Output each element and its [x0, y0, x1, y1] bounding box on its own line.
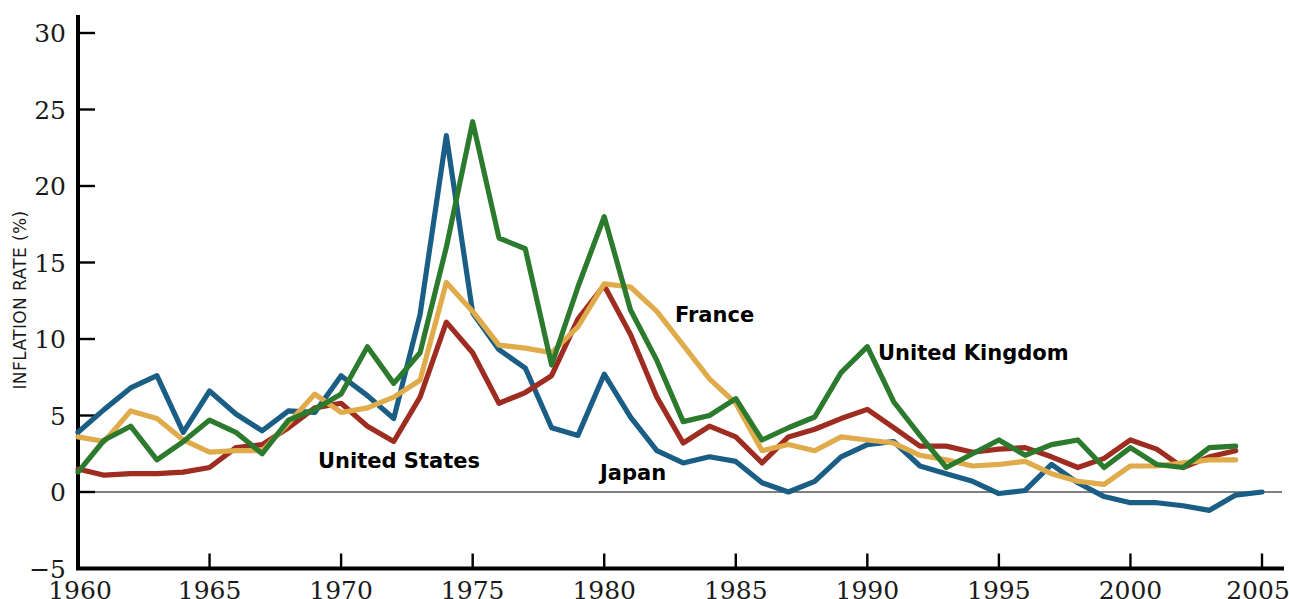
x-tick-label: 1995 — [967, 576, 1031, 599]
x-tick-label: 1970 — [309, 576, 373, 599]
x-tick-label: 1985 — [704, 576, 768, 599]
y-tick-label: 30 — [34, 19, 66, 48]
y-tick-label: 0 — [50, 478, 66, 507]
x-tick-label: 1965 — [178, 576, 242, 599]
annotation-united-kingdom: United Kingdom — [878, 341, 1069, 365]
y-axis-title-text: INFLATION RATE (%) — [10, 210, 30, 389]
x-tick-label: 2000 — [1099, 576, 1163, 599]
x-tick-label: 1960 — [48, 576, 112, 599]
series-line-france — [78, 282, 1236, 484]
annotation-japan: Japan — [598, 461, 666, 485]
y-tick-label: 25 — [34, 96, 66, 125]
y-tick-label: 10 — [34, 325, 66, 354]
annotation-france: France — [675, 303, 754, 327]
y-axis-title: INFLATION RATE (%) — [10, 210, 30, 389]
series-annotations: United StatesJapanFranceUnited Kingdom — [318, 303, 1069, 485]
series-line-japan — [78, 136, 1262, 511]
y-axis-tick-labels: 302520151050−5 — [29, 19, 66, 584]
x-tick-label: 1980 — [572, 576, 636, 599]
inflation-rate-chart: 302520151050−5 1960196519701975198019851… — [0, 0, 1289, 599]
x-tick-label: 1975 — [441, 576, 505, 599]
series-lines — [78, 122, 1262, 511]
y-tick-label: 15 — [34, 249, 66, 278]
x-tick-label: 2005 — [1226, 576, 1289, 599]
annotation-united-states: United States — [318, 449, 480, 473]
y-tick-label: 5 — [50, 402, 66, 431]
x-tick-label: 1990 — [836, 576, 900, 599]
x-axis-tick-labels: 1960196519701975198019851990199520002005 — [48, 576, 1289, 599]
series-line-united-kingdom — [78, 122, 1236, 472]
y-tick-label: 20 — [34, 172, 66, 201]
chart-canvas: 302520151050−5 1960196519701975198019851… — [0, 0, 1289, 599]
